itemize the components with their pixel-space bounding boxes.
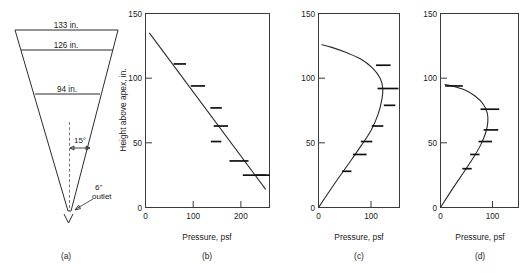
panel-d-chart: 150 100 50 0 0 100 Pressure, psf (d) — [423, 10, 518, 261]
dimension-label-94: 94 in. — [57, 85, 77, 94]
panel-label-a: (a) — [61, 251, 71, 261]
outlet-word-label: outlet — [92, 192, 112, 201]
panel-c-xlabel-0: 0 — [316, 212, 321, 221]
panel-d-data-markers — [445, 86, 499, 169]
panel-b-ylabel-100: 100 — [128, 74, 142, 83]
panel-d-xlabel-0: 0 — [438, 212, 443, 221]
angle-label-15deg: 15° — [74, 136, 86, 145]
figure-container: 133 in. 126 in. 94 in. 15° 6" outlet (a)… — [0, 0, 530, 273]
panel-c-ylabel-50: 50 — [306, 139, 316, 148]
panel-b-xlabel-200: 200 — [234, 212, 248, 221]
dimension-label-126: 126 in. — [54, 41, 79, 50]
panel-label-b: (b) — [202, 251, 212, 261]
panel-c-ylabel-100: 100 — [301, 74, 315, 83]
panel-c-ylabel-150: 150 — [301, 10, 315, 19]
panel-b-data-markers — [174, 64, 270, 175]
dimension-label-133: 133 in. — [54, 21, 79, 30]
panel-c-xlabel-100: 100 — [364, 212, 378, 221]
panel-label-d: (d) — [475, 251, 485, 261]
outlet-size-label: 6" — [95, 183, 102, 192]
series-theoretical-line — [149, 33, 265, 189]
panel-a-schematic: 133 in. 126 in. 94 in. 15° 6" outlet (a) — [15, 21, 118, 262]
shared-yaxis-title: Height above apex, in. — [118, 68, 128, 151]
panel-d-ylabel-100: 100 — [423, 74, 437, 83]
panel-b-ylabel-150: 150 — [128, 10, 142, 19]
panel-c-frame — [319, 14, 400, 208]
panel-d-frame — [441, 14, 519, 208]
outlet-vee — [64, 214, 73, 223]
panel-d-xaxis-title: Pressure, psf — [455, 232, 505, 242]
panel-b-theory-line — [149, 33, 265, 189]
panel-d-xlabel-100: 100 — [486, 212, 500, 221]
panel-b-xlabel-0: 0 — [143, 212, 148, 221]
panel-d-ylabel-50: 50 — [428, 139, 438, 148]
series-theoretical-curve — [441, 85, 488, 208]
figure-svg: 133 in. 126 in. 94 in. 15° 6" outlet (a)… — [0, 0, 530, 273]
panel-b-ylabel-0: 0 — [137, 204, 142, 213]
panel-c-xaxis-title: Pressure, psf — [334, 232, 384, 242]
outlet-leader-line — [76, 199, 93, 209]
panel-c-chart: 150 100 50 0 0 100 Pressure, psf (c) — [301, 10, 399, 261]
panel-b-xaxis-title: Pressure, psf — [182, 232, 232, 242]
panel-d-ylabel-0: 0 — [432, 204, 437, 213]
panel-d-ylabel-150: 150 — [423, 10, 437, 19]
panel-c-ylabel-0: 0 — [310, 204, 315, 213]
panel-d-theory-curve — [441, 85, 488, 208]
panel-b-chart: 150 100 50 0 0 100 200 Pressure, psf (b) — [128, 10, 269, 261]
panel-b-ylabel-50: 50 — [133, 139, 143, 148]
panel-label-c: (c) — [354, 251, 364, 261]
panel-b-xlabel-100: 100 — [186, 212, 200, 221]
panel-c-data-markers — [342, 65, 398, 171]
hopper-outline — [15, 30, 118, 211]
